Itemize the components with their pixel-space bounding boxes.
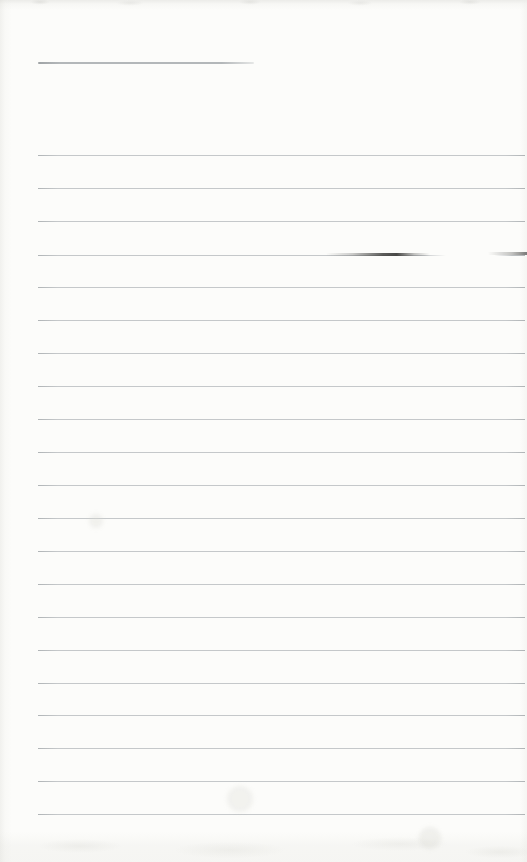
ruled-line — [38, 748, 525, 749]
scan-bottom-shading — [0, 832, 527, 862]
paper-mottling-spot — [89, 514, 103, 528]
ruled-line — [38, 518, 525, 519]
ruled-line — [38, 386, 525, 387]
ink-smudge-mark — [326, 253, 430, 256]
right-edge-ink-streak — [488, 252, 527, 255]
ruled-line — [38, 419, 525, 420]
ruled-line — [38, 814, 525, 815]
ruled-line — [38, 551, 525, 552]
ruled-line — [38, 452, 525, 453]
ruled-line — [38, 155, 525, 156]
ruled-line — [38, 584, 525, 585]
scan-top-edge-artifact — [0, 0, 527, 10]
scanned-notebook-page — [0, 0, 527, 862]
scan-right-edge-artifact — [520, 0, 527, 862]
ruled-line — [38, 781, 525, 782]
ruled-line — [38, 353, 525, 354]
ruled-line — [38, 485, 525, 486]
ruled-line — [38, 320, 525, 321]
ruled-line — [38, 650, 525, 651]
ruled-line — [38, 287, 525, 288]
ruled-line — [38, 617, 525, 618]
ruled-line — [38, 683, 525, 684]
scan-left-edge-artifact — [0, 0, 12, 862]
header-underline — [38, 62, 254, 64]
paper-mottling-spot — [419, 827, 441, 849]
ruled-line — [38, 715, 525, 716]
ruled-line — [38, 221, 525, 222]
ruled-line — [38, 188, 525, 189]
paper-mottling-spot — [227, 786, 253, 812]
